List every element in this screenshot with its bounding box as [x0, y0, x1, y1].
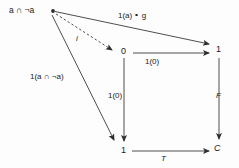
commutative-diagram: a ∩ ¬a 0 1 1 C 1(a) ∘ g i 1(a ∩ ¬a) 1(0)…: [0, 0, 239, 168]
source-point-dot: [51, 9, 55, 13]
object-one-bottom: 1: [121, 146, 126, 155]
edge-label-1a-compose-g: 1(a) ∘ g: [118, 12, 146, 20]
object-zero: 0: [121, 47, 126, 56]
edge-label-1-0-horizontal: 1(0): [145, 58, 159, 66]
edge-label-T: T: [161, 155, 166, 163]
edge-label-i: i: [76, 35, 78, 43]
edge-label-1-a-and-not-a: 1(a ∩ ¬a): [30, 73, 64, 81]
diagram-canvas: [0, 0, 239, 168]
edge-label-F: F: [216, 92, 221, 100]
arrow-top-to-zero-dashed: [56, 14, 112, 50]
object-one-right: 1: [216, 45, 221, 54]
object-c: C: [214, 144, 221, 153]
edge-label-1-0-vertical: 1(0): [108, 92, 122, 100]
object-a-and-not-a: a ∩ ¬a: [9, 6, 34, 15]
